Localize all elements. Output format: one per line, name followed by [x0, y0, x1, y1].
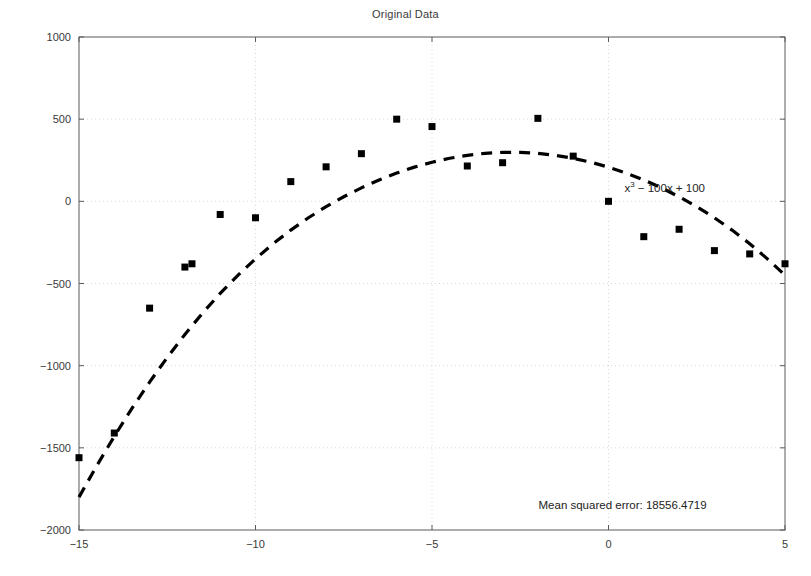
data-point-marker — [217, 211, 224, 218]
tick-labels-group: −2000−1500−1000−50005001000−15−10−505 — [40, 31, 788, 550]
gridlines-group — [79, 37, 785, 530]
data-point-marker — [534, 115, 541, 122]
x-axis-tick-label: −5 — [426, 538, 439, 550]
data-point-marker — [640, 233, 647, 240]
data-point-marker — [358, 150, 365, 157]
y-axis-tick-label: −2000 — [40, 524, 71, 536]
x-axis-tick-label: 0 — [605, 538, 611, 550]
figure-canvas: Original Data −2000−1500−1000−5000500100… — [0, 0, 811, 576]
y-axis-tick-label: 1000 — [47, 31, 71, 43]
x-axis-tick-label: −15 — [70, 538, 89, 550]
data-point-marker — [76, 454, 83, 461]
data-point-marker — [676, 226, 683, 233]
data-point-marker — [252, 214, 259, 221]
equation-annotation: x3 − 100x + 100 — [624, 180, 705, 194]
data-point-marker — [605, 198, 612, 205]
data-point-marker — [111, 430, 118, 437]
data-point-marker — [393, 116, 400, 123]
data-point-marker — [464, 163, 471, 170]
data-point-marker — [782, 260, 789, 267]
x-axis-tick-label: −10 — [246, 538, 265, 550]
data-point-marker — [287, 178, 294, 185]
y-axis-tick-label: 0 — [65, 195, 71, 207]
data-point-marker — [188, 260, 195, 267]
data-point-marker — [146, 305, 153, 312]
y-axis-tick-label: −1500 — [40, 442, 71, 454]
equation-rest: − 100x + 100 — [635, 182, 705, 194]
x-axis-tick-label: 5 — [782, 538, 788, 550]
data-point-marker — [429, 123, 436, 130]
data-point-marker — [323, 163, 330, 170]
data-point-marker — [499, 159, 506, 166]
data-point-marker — [746, 250, 753, 257]
plot-area: −2000−1500−1000−50005001000−15−10−505 x3… — [0, 0, 811, 576]
mse-annotation: Mean squared error: 18556.4719 — [539, 499, 707, 511]
data-point-marker — [181, 264, 188, 271]
data-point-marker — [570, 153, 577, 160]
y-axis-tick-label: −500 — [46, 278, 71, 290]
data-point-marker — [711, 247, 718, 254]
y-axis-tick-label: −1000 — [40, 360, 71, 372]
y-axis-tick-label: 500 — [53, 113, 71, 125]
